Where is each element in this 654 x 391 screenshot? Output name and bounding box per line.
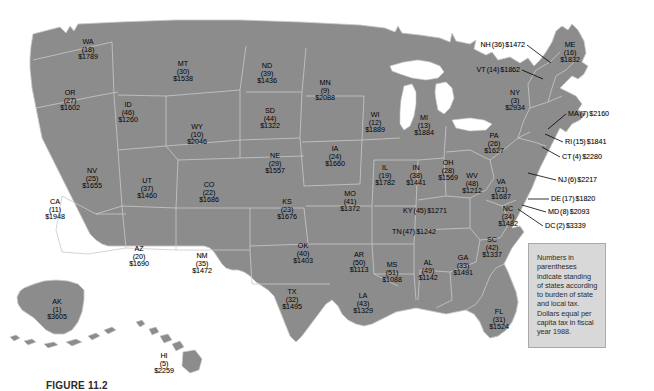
state-rank: (14) — [487, 65, 500, 74]
legend-note-text: Numbers in parentheses indicate standing… — [537, 253, 597, 336]
state-amount: $1482 — [498, 220, 518, 228]
state-label-il: IL(19)$1782 — [375, 164, 395, 187]
state-amount: $1472 — [505, 40, 525, 49]
state-amount: $2280 — [582, 152, 602, 161]
state-abbr: MD — [548, 207, 559, 216]
state-label-or: OR(27)$1602 — [60, 89, 80, 112]
state-amount: $1686 — [199, 196, 219, 204]
state-label-hi: HI(5)$2259 — [154, 352, 174, 375]
state-label-ms: MS(51)$1088 — [382, 261, 402, 284]
state-label-al: AL(49)$1142 — [418, 259, 437, 282]
state-amount: $1142 — [418, 274, 437, 282]
state-abbr: DE — [551, 194, 561, 203]
legend-note-box: Numbers in parentheses indicate standing… — [528, 243, 606, 348]
state-label-me: ME(16)$1832 — [560, 41, 580, 64]
state-amount: $1329 — [353, 307, 373, 315]
state-amount: $1676 — [277, 213, 297, 221]
state-amount: $2088 — [315, 94, 335, 102]
state-amount: $1557 — [265, 167, 285, 175]
state-amount: $1655 — [82, 182, 102, 190]
state-amount: $1524 — [489, 323, 509, 331]
state-amount: $1841 — [587, 137, 607, 146]
state-amount: $1569 — [438, 174, 458, 182]
state-amount: $1627 — [484, 147, 504, 155]
state-amount: $1460 — [137, 192, 157, 200]
state-label-ak: AK(1)$3605 — [47, 298, 67, 321]
state-rank: (2) — [556, 221, 565, 230]
state-rank: (17) — [562, 194, 575, 203]
state-label-wv: WV(48)$1212 — [462, 172, 482, 195]
state-label-nc: NC(34)$1482 — [498, 205, 518, 228]
state-amount: $1687 — [491, 193, 511, 201]
state-abbr: NJ — [558, 175, 567, 184]
state-amount: $1889 — [365, 126, 385, 134]
state-label-pa: PA(26)$1627 — [484, 132, 504, 155]
state-abbr: CT — [562, 152, 571, 161]
state-label-va: VA(21)$1687 — [491, 178, 511, 201]
state-label-ny: NY(3)$2934 — [505, 89, 525, 112]
state-label-fl: FL(31)$1524 — [489, 308, 509, 331]
state-abbr: TN — [392, 227, 401, 236]
state-abbr: VT — [477, 65, 486, 74]
state-amount: $1260 — [118, 116, 138, 124]
figure-container: WA(18)$1789OR(27)$1602ID(46)$1260MT(30)$… — [0, 0, 654, 391]
state-label-ga: GA(33)$1491 — [453, 254, 473, 277]
state-amount: $1271 — [427, 206, 447, 215]
state-amount: $1337 — [482, 251, 502, 259]
state-label-ok: OK(40)$1403 — [293, 242, 313, 265]
state-amount: $1403 — [293, 257, 313, 265]
state-amount: $1113 — [350, 266, 369, 274]
state-amount: $1820 — [575, 194, 595, 203]
state-amount: $3605 — [47, 313, 67, 321]
state-label-nm: NM(35)$1472 — [192, 252, 212, 275]
state-amount: $1491 — [453, 269, 473, 277]
state-amount: $1538 — [173, 75, 193, 83]
state-amount: $1495 — [282, 303, 302, 311]
leader-line-dc — [518, 209, 543, 226]
state-rank: (47) — [403, 227, 416, 236]
state-rank: (36) — [492, 40, 505, 49]
state-label-nv: NV(25)$1655 — [82, 167, 102, 190]
state-amount: $1372 — [340, 205, 360, 213]
state-rank: (8) — [560, 207, 569, 216]
state-label-ia: IA(24)$1660 — [325, 145, 345, 168]
state-label-wy: WY(10)$2046 — [187, 123, 207, 146]
state-label-tn: TN(47)$1242 — [392, 228, 436, 236]
state-rank: (6) — [568, 175, 577, 184]
state-amount: $1832 — [560, 56, 580, 64]
state-amount: $1322 — [260, 122, 280, 130]
state-label-ri: RI(15)$1841 — [565, 138, 606, 146]
state-label-ne: NE(29)$1557 — [265, 152, 285, 175]
state-rank: (45) — [414, 206, 427, 215]
state-label-nh: NH(36)$1472 — [480, 41, 525, 49]
state-amount: $1884 — [414, 129, 434, 137]
state-label-ma: MA(7)$2160 — [568, 110, 609, 118]
state-label-vt: VT(14)$1862 — [477, 66, 520, 74]
state-amount: $1436 — [257, 77, 277, 85]
state-label-ky: KY(45)$1271 — [403, 207, 447, 215]
state-abbr: DC — [545, 221, 555, 230]
state-amount: $2217 — [577, 175, 597, 184]
state-label-sc: SC(42)$1337 — [482, 236, 502, 259]
state-amount: $1242 — [416, 227, 436, 236]
state-label-wi: WI(12)$1889 — [365, 111, 385, 134]
state-amount: $1782 — [375, 179, 395, 187]
state-label-dc: DC(2)$3339 — [545, 222, 586, 230]
state-label-tx: TX(32)$1495 — [282, 288, 302, 311]
state-label-nd: ND(39)$1436 — [257, 62, 277, 85]
state-amount: $1441 — [406, 179, 426, 187]
state-amount: $1602 — [60, 104, 80, 112]
state-amount: $1948 — [45, 213, 65, 221]
state-amount: $2934 — [505, 104, 525, 112]
state-label-wa: WA(18)$1789 — [78, 38, 98, 61]
state-label-la: LA(43)$1329 — [353, 292, 373, 315]
state-label-ut: UT(37)$1460 — [137, 177, 157, 200]
state-label-ar: AR(50)$1113 — [350, 251, 369, 274]
state-label-az: AZ(20)$1690 — [129, 245, 149, 268]
state-amount: $2093 — [570, 207, 590, 216]
state-amount: $3339 — [566, 221, 586, 230]
state-label-oh: OH(28)$1569 — [438, 159, 458, 182]
state-amount: $2046 — [187, 138, 207, 146]
state-abbr: RI — [565, 137, 572, 146]
state-label-co: CO(22)$1686 — [199, 181, 219, 204]
